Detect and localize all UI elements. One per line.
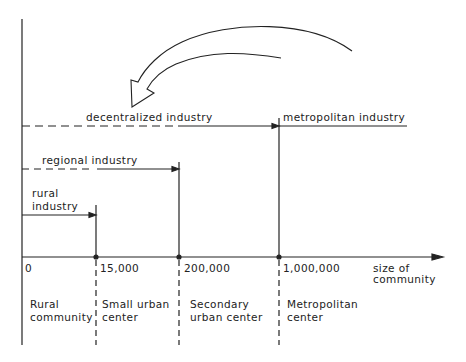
tick-dot-200000 — [177, 255, 181, 259]
tick-label-0: 0 — [25, 262, 32, 274]
tick-label-1000000: 1,000,000 — [283, 262, 340, 274]
zone-metropolitan-line2: center — [287, 311, 323, 323]
curved-arrow-icon — [131, 26, 352, 107]
axis-label-line2: community — [373, 273, 436, 285]
label-rural-line1: rural — [32, 187, 59, 199]
tick-label-200000: 200,000 — [184, 262, 230, 274]
zone-small-urban-line2: center — [102, 311, 138, 323]
label-metropolitan-industry: metropolitan industry — [283, 111, 405, 123]
label-rural-line2: industry — [32, 200, 78, 212]
decentralized-arrowhead-icon — [272, 124, 279, 129]
tick-dot-1000000 — [277, 255, 281, 259]
tick-dot-15000 — [94, 255, 98, 259]
tick-label-15000: 15,000 — [100, 262, 139, 274]
zone-secondary-line1: Secondary — [190, 298, 249, 310]
zone-rural-line2: community — [30, 311, 93, 323]
label-decentralized-industry: decentralized industry — [86, 111, 213, 123]
axis-arrowhead-icon — [432, 254, 443, 260]
regional-arrowhead-icon — [172, 167, 179, 172]
label-regional-industry: regional industry — [42, 154, 138, 166]
zone-metropolitan-line1: Metropolitan — [287, 298, 358, 310]
rural-arrowhead-icon — [89, 213, 96, 218]
zone-small-urban-line1: Small urban — [102, 298, 170, 310]
zone-rural-line1: Rural — [30, 298, 59, 310]
zone-secondary-line2: urban center — [190, 311, 263, 323]
